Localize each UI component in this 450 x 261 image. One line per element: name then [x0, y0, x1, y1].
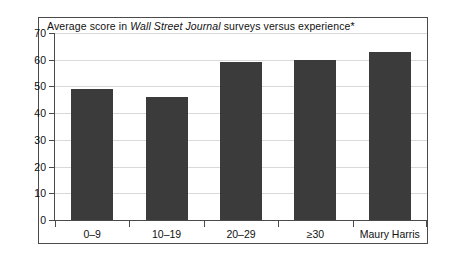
x-axis-tick — [278, 221, 279, 227]
x-axis-tick — [55, 221, 56, 227]
chart-title-after: surveys versus experience* — [221, 20, 355, 32]
y-axis-tick-label: 20 — [22, 161, 46, 173]
bar — [146, 97, 188, 220]
bar — [294, 60, 336, 220]
x-axis-tick — [426, 221, 427, 227]
chart-title-publication: Wall Street Journal — [130, 20, 220, 32]
chart-title-before: Average score in — [47, 20, 130, 32]
gridline — [55, 220, 427, 221]
bar — [369, 52, 411, 220]
plot-area — [55, 33, 427, 220]
x-axis-category-label: ≥30 — [307, 228, 324, 240]
x-axis-category-label: 0–9 — [83, 228, 101, 240]
y-axis-tick-label: 60 — [22, 54, 46, 66]
y-axis-tick-label: 0 — [22, 214, 46, 226]
x-axis-tick — [353, 221, 354, 227]
y-axis-tick-label: 40 — [22, 107, 46, 119]
bar — [220, 62, 262, 220]
x-axis-tick — [204, 221, 205, 227]
bar — [71, 89, 113, 220]
y-axis-tick-label: 70 — [22, 27, 46, 39]
x-axis-category-label: 20–29 — [226, 228, 255, 240]
x-axis-category-label: Maury Harris — [360, 228, 420, 240]
gridline — [55, 33, 427, 34]
chart-figure: Average score in Wall Street Journal sur… — [0, 0, 450, 261]
y-axis-tick-label: 50 — [22, 80, 46, 92]
chart-title: Average score in Wall Street Journal sur… — [47, 20, 355, 32]
y-axis-tick-label: 30 — [22, 134, 46, 146]
y-axis-tick-label: 10 — [22, 187, 46, 199]
x-axis-category-label: 10–19 — [152, 228, 181, 240]
x-axis-tick — [129, 221, 130, 227]
